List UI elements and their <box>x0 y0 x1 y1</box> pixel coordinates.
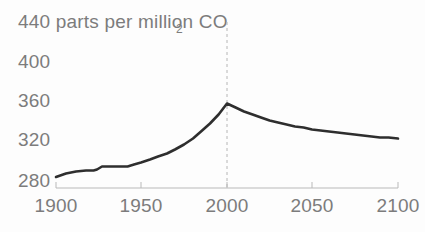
x-tick-label-2050: 2050 <box>290 195 333 216</box>
x-tick-label-2100: 2100 <box>376 195 419 216</box>
y-tick-label-400: 400 <box>18 51 50 72</box>
x-tick-label-1950: 1950 <box>119 195 162 216</box>
y-tick-label-280: 280 <box>18 170 50 191</box>
y-tick-label-320: 320 <box>18 129 50 150</box>
chart-title: 440 parts per million CO <box>18 11 228 32</box>
chart-canvas: 440 parts per million CO 2 400 360 320 2… <box>0 0 425 232</box>
x-tick-label-2000: 2000 <box>205 195 248 216</box>
chart-title-subscript: 2 <box>176 22 183 36</box>
y-tick-label-360: 360 <box>18 90 50 111</box>
x-tick-label-1900: 1900 <box>34 195 77 216</box>
co2-concentration-chart: 440 parts per million CO 2 400 360 320 2… <box>0 0 425 232</box>
